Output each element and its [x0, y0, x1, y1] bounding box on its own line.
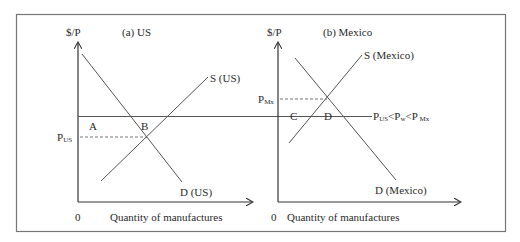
trade-diagram: $/P (a) US 0 Quantity of manufactures S … [0, 0, 520, 242]
us-supply-label: S (US) [210, 72, 241, 85]
mexico-x-axis-label: Quantity of manufactures [287, 211, 399, 223]
area-label-c: C [290, 110, 297, 122]
area-label-a: A [89, 120, 97, 132]
mexico-supply-label: S (Mexico) [364, 49, 414, 62]
area-label-b: B [141, 120, 148, 132]
mexico-demand-label: D (Mexico) [375, 184, 427, 197]
mexico-y-axis-label: $/P [267, 26, 282, 38]
us-panel-title: (a) US [122, 26, 151, 39]
us-y-axis-label: $/P [66, 26, 81, 38]
mexico-panel-title: (b) Mexico [323, 26, 373, 39]
mexico-origin-label: 0 [271, 211, 277, 223]
us-demand-label: D (US) [180, 186, 212, 199]
area-label-d: D [324, 110, 332, 122]
us-x-axis-label: Quantity of manufactures [110, 211, 222, 223]
us-origin-label: 0 [75, 211, 81, 223]
